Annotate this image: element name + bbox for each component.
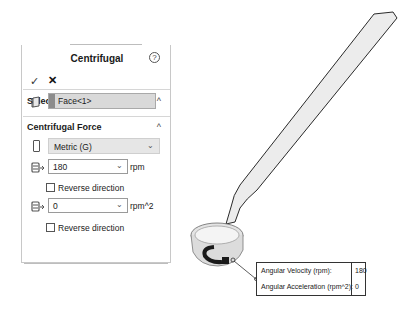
- collapse-icon[interactable]: ^: [157, 122, 161, 132]
- callout-divider: [351, 263, 352, 295]
- face-selection-value: Face<1>: [58, 96, 92, 106]
- divider: [23, 89, 170, 90]
- angular-velocity-unit: rpm: [130, 162, 145, 172]
- centrifugal-property-panel: Centrifugal ? ✓ ✕ Selected Reference ^ F…: [21, 45, 171, 263]
- chevron-down-icon: ⌄: [147, 141, 154, 150]
- angular-acceleration-icon: [30, 200, 46, 213]
- callout-leader: [234, 261, 256, 279]
- units-select[interactable]: Metric (G) ⌄: [48, 138, 160, 154]
- panel-border: [24, 263, 168, 264]
- reverse-direction-checkbox-1[interactable]: [46, 183, 55, 192]
- ok-check-icon[interactable]: ✓: [30, 75, 39, 88]
- face-selection-icon: [31, 96, 41, 108]
- callout-row-angular-acceleration: Angular Acceleration (rpm^2): 0: [257, 279, 365, 295]
- angular-acceleration-value: 0: [53, 201, 58, 211]
- angular-acceleration-input[interactable]: 0 ⌄: [48, 198, 128, 213]
- help-icon[interactable]: ?: [149, 52, 160, 63]
- chevron-down-icon[interactable]: ⌄: [116, 161, 123, 170]
- section-title-centrifugal-force[interactable]: Centrifugal Force: [27, 122, 102, 132]
- selection-color-bar: [49, 94, 55, 108]
- cup-shape: [191, 223, 243, 266]
- angular-velocity-input[interactable]: 180 ⌄: [48, 159, 128, 174]
- callout-value: 0: [355, 283, 359, 290]
- units-select-value: Metric (G): [54, 142, 92, 152]
- face-selection-field[interactable]: Face<1>: [48, 93, 156, 109]
- reverse-direction-label-1: Reverse direction: [58, 183, 124, 193]
- angular-velocity-value: 180: [53, 162, 67, 172]
- reverse-direction-checkbox-2[interactable]: [46, 223, 55, 232]
- reverse-direction-label-2: Reverse direction: [58, 223, 124, 233]
- callout-label: Angular Acceleration (rpm^2):: [261, 283, 353, 290]
- blade-shape: [226, 12, 397, 224]
- units-icon: [33, 140, 40, 152]
- cancel-x-icon[interactable]: ✕: [48, 74, 57, 87]
- callout-value: 180: [355, 267, 367, 274]
- callout-label: Angular Velocity (rpm):: [261, 267, 332, 274]
- values-callout: Angular Velocity (rpm): 180 Angular Acce…: [256, 262, 366, 296]
- divider: [23, 116, 170, 117]
- angular-acceleration-unit: rpm^2: [130, 201, 153, 211]
- angular-velocity-icon: [30, 161, 46, 174]
- collapse-icon[interactable]: ^: [157, 96, 161, 106]
- chevron-down-icon[interactable]: ⌄: [116, 200, 123, 209]
- callout-row-angular-velocity: Angular Velocity (rpm): 180: [257, 263, 365, 279]
